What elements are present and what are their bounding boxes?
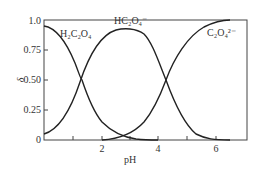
label-hc2o4: HC₂O₄⁻ [114, 15, 147, 26]
curve-h2c2o4 [44, 26, 158, 140]
y-tick-0.50: 0.50 [24, 74, 42, 85]
x-tick-6: 6 [214, 143, 219, 154]
y-tick-1.0: 1.0 [29, 15, 42, 26]
x-axis-label: pH [124, 154, 136, 165]
y-tick-0: 0 [36, 134, 41, 145]
y-axis-label: δ [15, 77, 26, 82]
label-c2o4: C₂O₄²⁻ [207, 27, 236, 38]
curve-c2o4 [102, 20, 230, 140]
y-tick-0.75: 0.75 [24, 44, 42, 55]
y-tick-0.25: 0.25 [24, 104, 42, 115]
distribution-chart: 0 0.25 0.50 0.75 1.0 δ 2 4 6 pH H₂C₂O₄ H… [0, 0, 262, 170]
curve-hc2o4 [44, 29, 230, 140]
label-h2c2o4: H₂C₂O₄ [60, 28, 92, 39]
x-tick-2: 2 [100, 143, 105, 154]
y-axis [44, 50, 48, 110]
x-tick-4: 4 [156, 143, 161, 154]
